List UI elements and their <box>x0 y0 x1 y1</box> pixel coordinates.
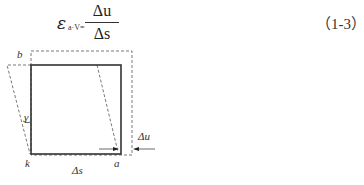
shear-strain-diagram: b γ k a Δs Δu <box>0 0 364 185</box>
label-delta-s: Δs <box>71 164 83 176</box>
label-gamma: γ <box>24 111 29 123</box>
dashed-sheared-left <box>7 65 31 154</box>
arrow-inner-head <box>113 147 119 151</box>
dashed-deformed-rect <box>31 51 132 155</box>
label-delta-u: Δu <box>137 130 150 142</box>
label-k: k <box>25 157 31 169</box>
label-b: b <box>17 48 23 60</box>
arrow-outer-head <box>133 147 139 151</box>
dashed-sheared-right <box>97 65 118 152</box>
label-a: a <box>114 157 120 169</box>
